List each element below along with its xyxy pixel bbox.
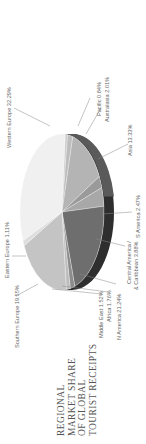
label-southern-europe: Southern Europe 19.55% (14, 285, 21, 348)
label-africa: Africa 1.76% (106, 290, 113, 322)
label-central-america-1: Central America / (126, 241, 133, 284)
label-s-america: S America 2.47% (135, 195, 142, 238)
label-western-europe: Western Europe 32.29% (6, 87, 13, 148)
label-middle-east: Middle East 1.52% (98, 291, 105, 338)
label-pacific: Pacific 0.84% (96, 82, 103, 116)
label-eastern-europe: Eastern Europe 1.11% (4, 222, 11, 278)
label-central-america-2: & Caribbean 3.88% (133, 241, 140, 290)
chart-stage: REGIONAL MARKET SHARE OF GLOBAL TOURIST … (0, 0, 146, 444)
pie-chart (0, 0, 146, 444)
label-n-america: N America 21.24% (116, 294, 123, 340)
label-asia: Asia 13.33% (127, 125, 134, 156)
label-australasia: Australasia 2.01% (104, 77, 111, 122)
pie-slices (20, 134, 104, 290)
